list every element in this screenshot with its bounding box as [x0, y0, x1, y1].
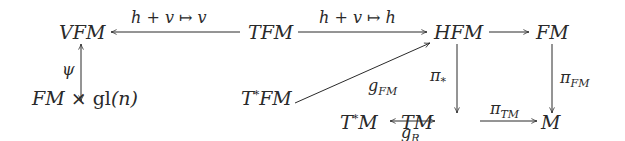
g-r-subscript: R	[411, 132, 419, 141]
label-g-r: gR	[401, 125, 420, 141]
label-pi-fm: πFM	[560, 70, 589, 86]
label-psi: ψ	[62, 62, 75, 78]
label-h-plus-v-to-h: h + v ↦ h	[319, 10, 396, 26]
node-tfm: TFM	[248, 23, 293, 42]
label-pi-tm: πTM	[490, 101, 519, 117]
node-tstar-fm: T*FM	[241, 89, 292, 108]
label-h-plus-v-to-v: h + v ↦ v	[131, 10, 207, 26]
label-pi-star: π*	[430, 68, 446, 84]
pi-symbol: π	[560, 68, 571, 87]
label-g-fm: gFM	[368, 78, 397, 94]
t-text: T	[340, 111, 353, 133]
pi-tm-subscript: TM	[501, 108, 520, 121]
m-text: M	[358, 111, 377, 133]
gl-arg: (n)	[111, 87, 138, 109]
node-hfm: HFM	[434, 23, 483, 42]
star-sup: *	[353, 112, 359, 125]
node-fm: FM	[536, 23, 569, 42]
commutative-diagram: VFM TFM HFM FM FM × gl(n) T*FM T*M TM M …	[0, 0, 625, 141]
g-symbol: g	[401, 123, 411, 141]
pi-symbol: π	[490, 99, 501, 118]
node-fm-times-gl: FM × gl(n)	[32, 89, 138, 108]
pi-symbol: π	[430, 66, 441, 85]
g-symbol: g	[368, 76, 378, 95]
arrow-tstarfm-to-hfm	[295, 43, 430, 103]
node-vfm: VFM	[59, 23, 105, 42]
times-symbol: ×	[71, 87, 87, 109]
fm-text: FM	[259, 87, 292, 109]
pi-fm-subscript: FM	[571, 77, 590, 90]
node-tstar-m: T*M	[340, 113, 378, 132]
gl-text: gl	[93, 87, 111, 109]
node-m: M	[541, 113, 560, 132]
t-text: T	[241, 87, 254, 109]
star-sup: *	[254, 88, 260, 101]
g-fm-subscript: FM	[378, 85, 397, 98]
fm-text: FM	[32, 87, 65, 109]
pi-star-subscript: *	[441, 75, 447, 88]
